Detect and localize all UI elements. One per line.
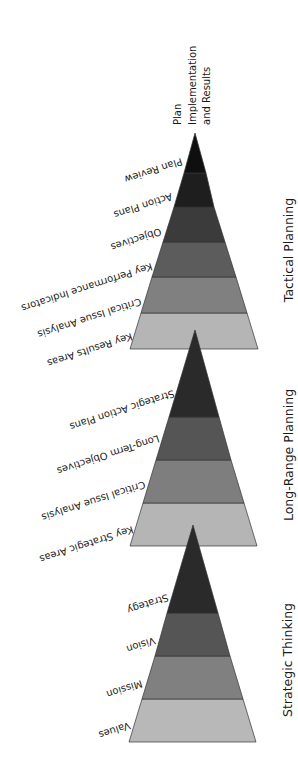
label-key-results-areas: Key Results Areas [46, 331, 134, 369]
band-values [129, 699, 256, 742]
label-long-term-objectives: Long-Term Objectives [56, 433, 161, 477]
label-strategic-action-plans: Strategic Action Plans [68, 388, 175, 432]
label-critical-issue-analysis-2: Critical Issue Analysis [40, 479, 146, 523]
title-strategic-thinking: Strategic Thinking [280, 603, 295, 717]
band-plan-review [184, 133, 206, 173]
band-critical-issue-analysis [141, 277, 247, 313]
band-objectives [163, 207, 225, 242]
pyramid-strategic-thinking: Strategy Vision Mission Values Strategic… [97, 525, 295, 742]
band-action-plans [174, 173, 214, 207]
label-key-strategic-areas: Key Strategic Areas [38, 524, 135, 565]
band-key-performance-indicators [152, 242, 236, 277]
band-critical-issue-analysis-2 [143, 460, 244, 503]
label-values: Values [97, 720, 131, 741]
label-objectives: Objectives [109, 226, 162, 253]
planning-pyramids-diagram: Plan Review Action Plans Objectives Key … [0, 0, 298, 777]
note-line-implementation: Implementation [187, 46, 198, 125]
pyramid-long-range-planning: Strategic Action Plans Long-Term Objecti… [38, 330, 296, 565]
title-tactical-planning: Tactical Planning [281, 198, 296, 303]
note-line-and-results: and Results [201, 67, 212, 125]
label-plan-review: Plan Review [123, 156, 184, 185]
title-long-range-planning: Long-Range Planning [281, 389, 296, 521]
note-line-plan: Plan [172, 104, 183, 125]
band-mission [142, 656, 243, 699]
label-strategy: Strategy [126, 592, 170, 616]
label-mission: Mission [105, 678, 144, 700]
pyramid-tactical-planning: Plan Review Action Plans Objectives Key … [20, 133, 296, 369]
label-action-plans: Action Plans [112, 191, 173, 220]
label-vision: Vision [125, 635, 157, 655]
plan-implementation-note: Plan Implementation and Results [172, 46, 212, 125]
band-vision [155, 613, 230, 656]
band-long-term-objectives [156, 417, 231, 460]
